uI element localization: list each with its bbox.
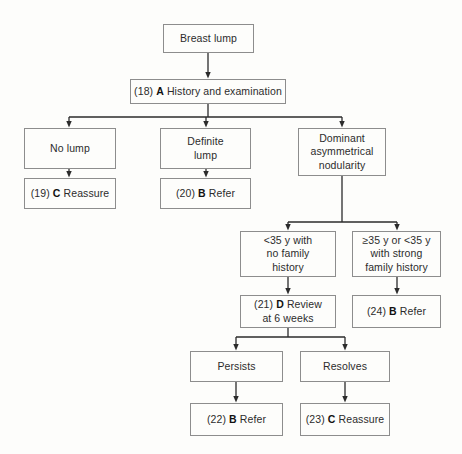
recommendation-grade: B [389,305,397,317]
node-reassure-23[interactable]: (23) C Reassure [300,403,390,436]
node-label: Dominant asymmetrical nodularity [299,132,385,173]
node-resolves[interactable]: Resolves [300,351,390,382]
node-definite-lump[interactable]: Definite lump [160,128,251,169]
recommendation-grade: C [328,413,336,425]
recommendation-grade: A [156,85,164,97]
node-label: (22) B Refer [191,413,282,427]
node-dominant-asymmetrical-nodularity[interactable]: Dominant asymmetrical nodularity [298,128,386,176]
node-label: Resolves [301,360,389,374]
recommendation-grade: B [229,413,237,425]
node-label: No lump [25,142,115,156]
node-label: <35 y with no family history [241,234,335,275]
node-label: (21) D Review at 6 weeks [241,298,335,325]
node-over-35-or-strong-family-history[interactable]: ≥35 y or <35 y with strong family histor… [352,231,441,277]
node-label: Definite lump [161,135,250,162]
node-persists[interactable]: Persists [190,351,283,382]
node-label: (23) C Reassure [301,413,389,427]
node-history-and-examination[interactable]: (18) A History and examination [130,79,286,104]
node-refer-20[interactable]: (20) B Refer [160,178,251,209]
flowchart-canvas: Breast lump (18) A History and examinati… [0,0,462,454]
node-label: (24) B Refer [353,305,440,319]
node-refer-22[interactable]: (22) B Refer [190,403,283,436]
node-label: (20) B Refer [161,187,250,201]
recommendation-grade: B [198,187,206,199]
node-label: Breast lump [164,32,253,46]
recommendation-grade: D [276,298,284,310]
node-label: (18) A History and examination [131,85,285,99]
connector-layer [0,0,462,454]
node-review-at-6-weeks-21[interactable]: (21) D Review at 6 weeks [240,295,336,328]
recommendation-grade: C [53,187,61,199]
node-reassure-19[interactable]: (19) C Reassure [24,178,116,209]
node-label: Persists [191,360,282,374]
node-no-lump[interactable]: No lump [24,128,116,169]
node-label: ≥35 y or <35 y with strong family histor… [353,234,440,275]
node-breast-lump[interactable]: Breast lump [163,24,254,53]
node-refer-24[interactable]: (24) B Refer [352,295,441,328]
node-label: (19) C Reassure [25,187,115,201]
node-under-35-no-family-history[interactable]: <35 y with no family history [240,231,336,277]
